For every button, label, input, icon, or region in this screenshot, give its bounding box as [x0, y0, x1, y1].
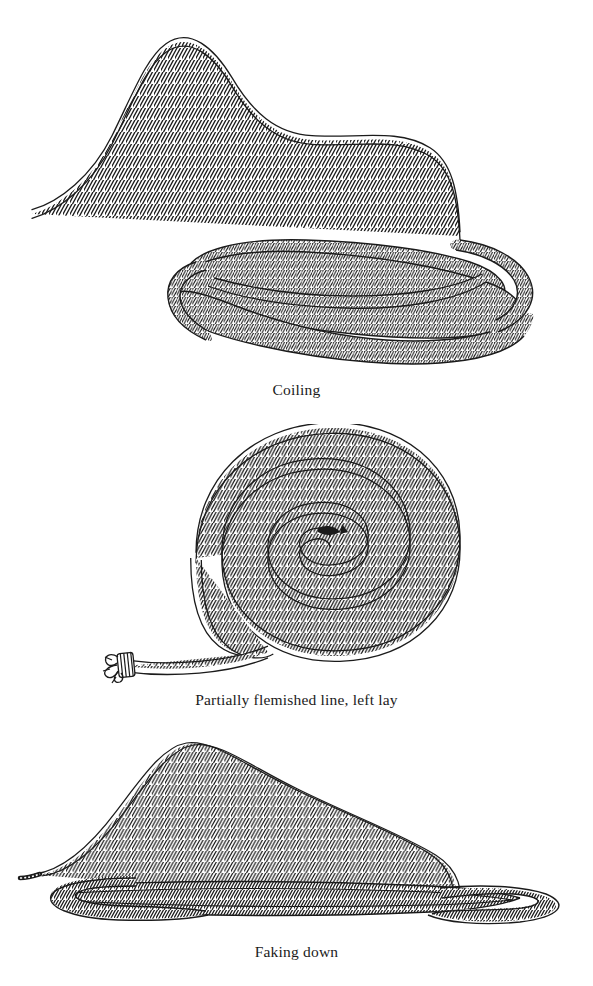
coiling-illustration — [0, 0, 593, 370]
flemished-line-illustration — [0, 424, 593, 684]
illustration-page: Coiling — [0, 0, 593, 986]
figure-flemished-line — [0, 424, 593, 684]
caption-flemish: Partially flemished line, left lay — [0, 691, 593, 709]
rope-whipping-end — [103, 652, 135, 683]
caption-faking: Faking down — [0, 943, 593, 961]
faking-down-illustration — [0, 730, 593, 930]
caption-coiling: Coiling — [0, 381, 593, 399]
flemish-spiral-body — [0, 424, 593, 684]
faking-free-tail — [20, 874, 40, 878]
figure-coiling — [0, 0, 593, 370]
figure-faking-down — [0, 730, 593, 930]
